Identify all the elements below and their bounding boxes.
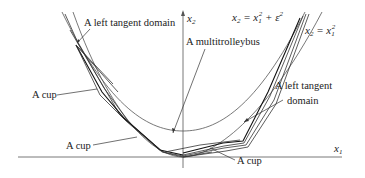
- annotation-cup-bottom-right: A cup: [237, 155, 262, 166]
- annotation-cup-left-upper: A cup: [32, 89, 57, 100]
- y-axis-label: x2: [186, 12, 196, 26]
- inner-parabola-equation: x2 = x12 + ε2: [231, 10, 283, 25]
- annotation-left-tangent-domain-right-line2: domain: [287, 95, 319, 106]
- x-axis-label: x1: [333, 142, 342, 156]
- leader-cup-left-upper: [57, 89, 97, 95]
- y-axis-arrow-icon: [181, 10, 185, 16]
- annotation-left-tangent-domain-right-line1: A left tangent: [275, 80, 332, 91]
- inner-parabola-curve: [62, 12, 305, 131]
- annotation-cup-left-lower: A cup: [66, 140, 91, 151]
- leader-multitrolleybus: [173, 49, 205, 133]
- annotation-multitrolleybus: A multitrolleybus: [186, 36, 260, 47]
- leader-left-tangent-domain-right: [244, 100, 283, 122]
- left-polygon-family: [65, 14, 183, 157]
- leader-cup-left-lower: [93, 137, 137, 145]
- outer-parabola-equation: x2 = x12: [304, 23, 336, 38]
- annotation-left-tangent-domain-top: A left tangent domain: [84, 17, 176, 28]
- diagram-figure: x1 x2 x2 = x12 + ε2 x2 = x12 A left tang…: [0, 0, 365, 178]
